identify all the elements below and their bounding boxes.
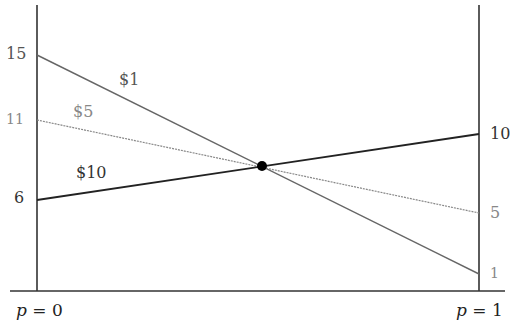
x-label-p1-rest: = 1 [467,300,503,320]
right-tick-1: 1 [490,266,499,280]
right-tick-5: 5 [490,205,500,221]
x-label-p1: p = 1 [456,302,503,319]
right-tick-10: 10 [490,126,510,142]
left-tick-6: 6 [14,190,24,206]
series-label-1: $1 [119,72,139,88]
intersection-point [257,161,267,171]
x-label-p1-var: p [456,300,467,320]
left-tick-11: 11 [6,112,24,126]
x-label-p0-var: p [16,300,27,320]
x-label-p0: p = 0 [16,302,63,319]
series-label-10: $10 [76,165,107,181]
left-tick-15: 15 [6,46,26,62]
series-label-5: $5 [73,104,93,120]
x-label-p0-rest: = 0 [27,300,63,320]
